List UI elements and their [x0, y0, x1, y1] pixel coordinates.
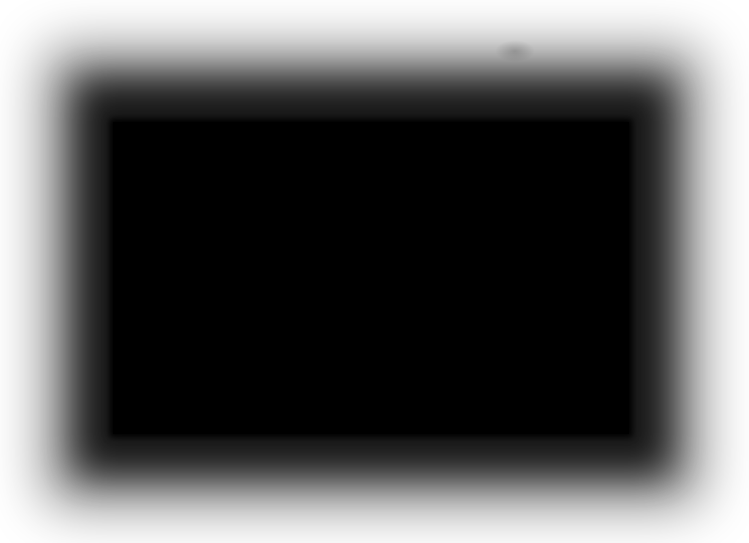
noise-speck — [495, 40, 535, 62]
canvas — [0, 0, 749, 543]
black-rectangle — [113, 122, 629, 434]
